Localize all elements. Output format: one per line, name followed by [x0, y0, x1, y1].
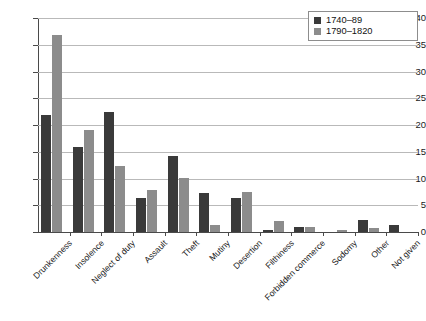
legend: 1740–891790–1820	[308, 11, 418, 41]
x-tick-label: Drunkenness	[31, 238, 74, 281]
x-tick-mark	[386, 232, 387, 236]
bar	[115, 166, 125, 232]
bar-group	[133, 18, 165, 232]
bar-group	[196, 18, 228, 232]
bar-group	[165, 18, 197, 232]
legend-swatch-icon	[314, 28, 321, 35]
x-tick-mark	[165, 232, 166, 236]
bar-group	[228, 18, 260, 232]
bar	[305, 227, 315, 232]
x-tick-label: Forbidden commerce	[263, 238, 327, 302]
bar	[136, 198, 146, 232]
bar	[231, 198, 241, 232]
bar	[199, 193, 209, 232]
bar-group	[386, 18, 418, 232]
bar	[41, 115, 51, 232]
bar	[168, 156, 178, 233]
x-tick-label: Mutiny	[208, 238, 233, 263]
legend-item: 1790–1820	[314, 26, 413, 37]
legend-swatch-icon	[314, 17, 321, 24]
bar	[73, 147, 83, 232]
x-tick-label: Desertion	[231, 238, 264, 271]
bar	[104, 112, 114, 232]
bar	[242, 192, 252, 232]
bar-group	[291, 18, 323, 232]
bar	[337, 230, 347, 232]
legend-label: 1740–89	[326, 15, 362, 26]
legend-item: 1740–89	[314, 15, 413, 26]
x-tick-mark	[355, 232, 356, 236]
bar	[147, 190, 157, 232]
bar	[179, 178, 189, 232]
x-tick-mark	[323, 232, 324, 236]
x-tick-mark	[291, 232, 292, 236]
x-tick-mark	[228, 232, 229, 236]
x-tick-mark	[70, 232, 71, 236]
x-tick-label: Other	[369, 238, 391, 260]
bar	[358, 220, 368, 232]
bar	[389, 225, 399, 232]
bar-group	[323, 18, 355, 232]
bar	[52, 35, 62, 232]
bar	[294, 227, 304, 232]
bar	[210, 225, 220, 232]
x-tick-label: Assault	[142, 238, 169, 265]
x-tick-label: Theft	[180, 238, 201, 259]
x-tick-mark	[101, 232, 102, 236]
bar-group	[38, 18, 70, 232]
bar	[263, 230, 273, 232]
bar	[84, 130, 94, 232]
bar-group	[260, 18, 292, 232]
bar-group	[70, 18, 102, 232]
bar-group	[101, 18, 133, 232]
x-tick-mark	[133, 232, 134, 236]
x-tick-mark	[196, 232, 197, 236]
plot-area	[38, 18, 418, 232]
x-tick-label: Sodomy	[330, 238, 359, 267]
bar	[369, 228, 379, 232]
x-tick-mark	[260, 232, 261, 236]
legend-label: 1790–1820	[326, 26, 373, 37]
x-tick-label: Not given	[390, 238, 423, 271]
bar-chart: 0510152025303540 DrunkennessInsolenceNeg…	[0, 0, 426, 321]
bar-group	[355, 18, 387, 232]
x-tick-mark	[418, 232, 419, 236]
bar	[274, 221, 284, 232]
